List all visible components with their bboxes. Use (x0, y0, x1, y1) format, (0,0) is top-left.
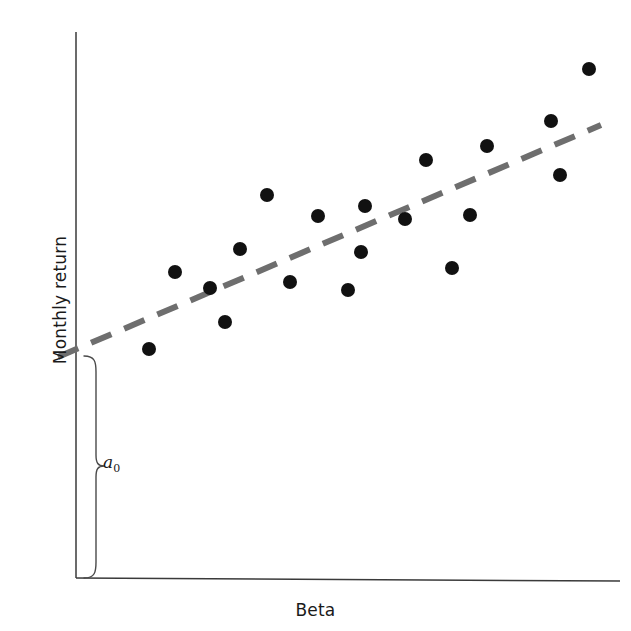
regression-trendline (58, 125, 601, 357)
x-axis-line (76, 578, 620, 581)
data-point (341, 283, 355, 297)
data-point (582, 62, 596, 76)
data-point (311, 209, 325, 223)
scatter-figure: Monthly return Beta a0 (0, 0, 631, 631)
data-point (358, 199, 372, 213)
data-point (544, 114, 558, 128)
intercept-annotation-a0: a0 (103, 452, 120, 475)
data-point (354, 245, 368, 259)
axes-group (76, 32, 620, 581)
data-point (283, 275, 297, 289)
data-point (445, 261, 459, 275)
data-point (463, 208, 477, 222)
data-point (260, 188, 274, 202)
intercept-brace (84, 356, 104, 578)
scatter-points-layer (142, 62, 596, 356)
data-point (233, 242, 247, 256)
x-axis-label: Beta (0, 600, 631, 620)
data-point (203, 281, 217, 295)
data-point (142, 342, 156, 356)
intercept-subscript: 0 (113, 462, 120, 475)
data-point (218, 315, 232, 329)
intercept-symbol: a (103, 452, 113, 472)
plot-canvas (0, 0, 631, 631)
data-point (168, 265, 182, 279)
trendline-group (58, 125, 601, 357)
data-point (419, 153, 433, 167)
data-point (553, 168, 567, 182)
data-point (398, 212, 412, 226)
y-axis-label: Monthly return (50, 220, 70, 380)
data-point (480, 139, 494, 153)
